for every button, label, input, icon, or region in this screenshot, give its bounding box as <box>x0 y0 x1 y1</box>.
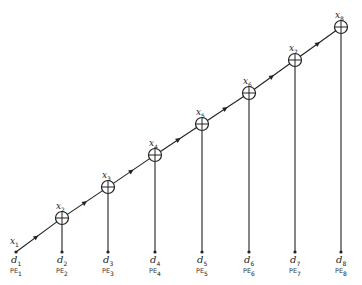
label-pe3-main: PE <box>102 267 110 275</box>
adder-icon <box>243 87 256 100</box>
label-pe3-sub: 3 <box>110 270 114 277</box>
label-d6: d6 <box>244 254 254 267</box>
label-x5: x5 <box>196 107 205 119</box>
arrow-right-icon <box>222 107 227 112</box>
adder-icon <box>149 149 162 162</box>
arrow-right-icon <box>315 42 320 47</box>
label-x1: x1 <box>10 236 19 248</box>
label-x5-sub: 5 <box>201 112 205 119</box>
label-pe6: PE6 <box>243 267 255 277</box>
label-d1: d1 <box>11 254 21 267</box>
adder-icon <box>56 212 69 225</box>
label-pe7-main: PE <box>289 267 297 275</box>
label-pe6-main: PE <box>243 267 251 275</box>
label-x2-sub: 2 <box>61 206 65 213</box>
label-d5: d5 <box>197 254 207 267</box>
arrow-right-icon <box>175 138 180 143</box>
label-x3-sub: 3 <box>107 175 111 182</box>
label-pe1: PE1 <box>10 267 22 277</box>
label-d4-sub: 4 <box>156 260 160 267</box>
label-d8: d8 <box>336 254 346 267</box>
adder-nodes <box>14 21 347 254</box>
label-x7: x7 <box>289 43 298 55</box>
label-pe1-main: PE <box>10 267 18 275</box>
label-d6-sub: 6 <box>250 260 254 267</box>
label-pe2-main: PE <box>56 267 64 275</box>
label-x8: x8 <box>335 10 344 22</box>
label-pe2: PE2 <box>56 267 68 277</box>
label-x2: x2 <box>56 201 65 213</box>
adder-icon <box>196 118 209 131</box>
label-pe5-sub: 5 <box>204 270 208 277</box>
label-x4: x4 <box>149 138 158 150</box>
label-pe3: PE3 <box>102 267 114 277</box>
label-pe5: PE5 <box>196 267 208 277</box>
arrow-right-icon <box>269 75 274 80</box>
label-pe1-sub: 1 <box>18 270 22 277</box>
label-d4: d4 <box>150 254 160 267</box>
label-d2-sub: 2 <box>63 260 67 267</box>
arrow-right-icon <box>33 235 38 240</box>
label-pe2-sub: 2 <box>64 270 68 277</box>
label-x3: x3 <box>102 170 111 182</box>
label-d5-sub: 5 <box>203 260 207 267</box>
adder-icon <box>335 21 348 34</box>
label-d8-sub: 8 <box>342 260 346 267</box>
label-d2: d2 <box>57 254 67 267</box>
label-pe4-main: PE <box>149 267 157 275</box>
label-x8-sub: 8 <box>340 15 344 22</box>
label-pe4-sub: 4 <box>157 270 161 277</box>
arrow-right-icon <box>128 170 133 175</box>
adder-icon <box>289 54 302 67</box>
adder-icon <box>102 181 115 194</box>
arrow-right-icon <box>82 201 87 206</box>
label-d7: d7 <box>290 254 300 267</box>
pe-chain-diagram: x1d1PE1x2d2PE2x3d3PE3x4d4PE4x5d5PE5x6d6P… <box>0 0 362 285</box>
label-x4-sub: 4 <box>154 143 158 150</box>
label-pe5-main: PE <box>196 267 204 275</box>
pe-input-lines <box>60 34 342 254</box>
label-pe6-sub: 6 <box>251 270 255 277</box>
label-x6-sub: 6 <box>248 81 252 88</box>
label-x7-sub: 7 <box>294 48 298 55</box>
label-pe7: PE7 <box>289 267 301 277</box>
diagram-labels: x1d1PE1x2d2PE2x3d3PE3x4d4PE4x5d5PE5x6d6P… <box>10 10 347 277</box>
label-pe8-sub: 8 <box>343 270 347 277</box>
label-d3-sub: 3 <box>109 260 113 267</box>
label-d1-sub: 1 <box>17 260 21 267</box>
label-d3: d3 <box>103 254 113 267</box>
label-pe8-main: PE <box>335 267 343 275</box>
label-pe7-sub: 7 <box>297 270 301 277</box>
label-x1-sub: 1 <box>15 241 19 248</box>
label-pe4: PE4 <box>149 267 161 277</box>
label-x6: x6 <box>243 76 252 88</box>
label-pe8: PE8 <box>335 267 347 277</box>
label-d7-sub: 7 <box>296 260 300 267</box>
